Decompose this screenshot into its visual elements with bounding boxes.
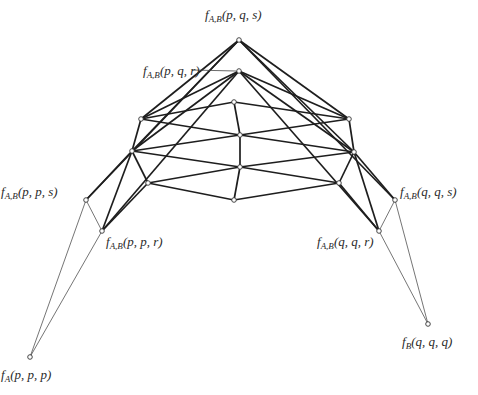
node-c1 xyxy=(232,100,237,105)
edge-l2-pps xyxy=(86,151,132,200)
function-arguments: (p, q, s) xyxy=(222,7,262,22)
edge-l2-l3 xyxy=(132,151,148,183)
edge-ppr-ppp xyxy=(30,231,102,357)
label-top: fA,B(p, q, s) xyxy=(205,8,262,24)
label-ppr: fA,B(p, p, r) xyxy=(106,235,163,251)
node-l2 xyxy=(130,149,135,154)
edge-l2-c3 xyxy=(132,151,240,167)
function-subscript: A,B xyxy=(5,191,18,201)
function-arguments: (q, q, r) xyxy=(334,234,374,249)
edge-l3-c4 xyxy=(148,183,234,200)
function-subscript: A,B xyxy=(209,14,222,24)
edge-r1-c1 xyxy=(234,102,349,119)
label-pps: fA,B(p, p, s) xyxy=(1,185,58,201)
node-c2 xyxy=(238,133,243,138)
edge-r2-c3 xyxy=(240,152,354,167)
function-arguments: (p, p, s) xyxy=(18,184,58,199)
function-arguments: (p, p, r) xyxy=(123,234,163,249)
function-arguments: (q, q, q) xyxy=(411,334,452,349)
edge-c3-c4 xyxy=(234,167,240,200)
edge-apex-r1 xyxy=(239,40,349,119)
node-qqr xyxy=(377,229,382,234)
node-qqs xyxy=(393,198,398,203)
node-second xyxy=(237,69,242,74)
node-apex xyxy=(237,38,242,43)
edge-l2-ppr xyxy=(102,151,132,231)
edge-r2-r3 xyxy=(339,152,354,183)
node-pps xyxy=(84,198,89,203)
edge-second-r1 xyxy=(239,71,349,119)
edge-pps-ppr xyxy=(86,200,102,231)
function-arguments: (q, q, s) xyxy=(417,184,457,199)
node-r1 xyxy=(347,117,352,122)
node-c4 xyxy=(232,198,237,203)
label-ppp: fA(p, p, p) xyxy=(1,368,51,384)
edge-qqs-qqr xyxy=(379,200,395,231)
label-qqs: fA,B(q, q, s) xyxy=(400,185,457,201)
node-l1 xyxy=(139,117,144,122)
edge-l1-c1 xyxy=(141,102,234,119)
function-subscript: A,B xyxy=(321,241,334,251)
node-ppp xyxy=(28,355,33,360)
node-r3 xyxy=(337,181,342,186)
edge-l2-c2 xyxy=(132,135,240,151)
node-r2 xyxy=(352,150,357,155)
function-subscript: A,B xyxy=(110,241,123,251)
edge-qqs-qqq xyxy=(395,200,428,324)
node-c3 xyxy=(238,165,243,170)
label-qqq: fB(q, q, q) xyxy=(402,335,452,351)
edge-c1-c2 xyxy=(234,102,240,135)
label-pqr: fA,B(p, q, r) xyxy=(143,64,200,80)
function-subscript: A,B xyxy=(147,70,160,80)
edge-r2-qqs xyxy=(354,152,395,200)
edge-pps-ppp xyxy=(30,200,86,357)
label-qqr: fA,B(q, q, r) xyxy=(317,235,374,251)
node-qqq xyxy=(426,322,431,327)
edge-r3-c4 xyxy=(234,183,339,200)
edge-apex-qqs xyxy=(239,40,395,200)
edge-r2-qqr xyxy=(354,152,379,231)
edge-qqr-qqq xyxy=(379,231,428,324)
function-subscript: A,B xyxy=(404,191,417,201)
edge-r3-qqr xyxy=(339,183,379,231)
edge-r1-c2 xyxy=(240,119,349,135)
function-arguments: (p, p, p) xyxy=(10,367,51,382)
edge-l3-ppr xyxy=(102,183,148,231)
edge-l3-c3 xyxy=(148,167,240,183)
thin-edges xyxy=(30,200,428,357)
node-ppr xyxy=(100,229,105,234)
node-l3 xyxy=(146,181,151,186)
function-arguments: (p, q, r) xyxy=(160,63,200,78)
